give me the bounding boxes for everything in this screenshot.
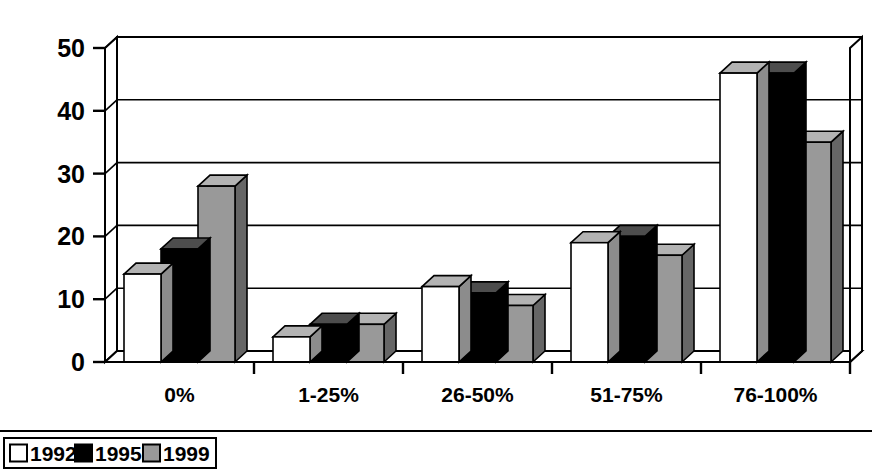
bar-1992-0% <box>124 263 173 362</box>
x-axis-category-label: 51-75% <box>590 383 663 406</box>
bar-side-face <box>459 276 471 362</box>
y-axis-tick-label: 30 <box>57 160 85 188</box>
bar-side-face <box>235 175 247 362</box>
bar-front-face <box>571 243 608 362</box>
bar-front-face <box>273 337 310 362</box>
bar-side-face <box>682 244 694 362</box>
bar-front-face <box>422 287 459 362</box>
bar-side-face <box>608 232 620 362</box>
bar-side-face <box>757 62 769 362</box>
left-wall <box>105 37 117 362</box>
x-axis-category-label: 26-50% <box>441 383 514 406</box>
chart-canvas: 010203040500%1-25%26-50%51-75%76-100%199… <box>0 0 872 472</box>
legend-swatch-white <box>10 445 27 462</box>
bar-chart-figure: 010203040500%1-25%26-50%51-75%76-100%199… <box>0 0 872 472</box>
bar-1992-26-50% <box>422 276 471 362</box>
bar-front-face <box>124 274 161 362</box>
bar-side-face <box>831 131 843 362</box>
legend-swatch-black <box>75 445 92 462</box>
y-axis-tick-label: 20 <box>57 222 85 250</box>
y-axis-tick-label: 50 <box>57 34 85 62</box>
y-axis-tick-label: 10 <box>57 285 85 313</box>
bar-side-face <box>198 238 210 362</box>
legend-label-1995: 1995 <box>95 442 142 465</box>
legend-swatch-gray <box>143 445 160 462</box>
y-axis-tick-label: 40 <box>57 97 85 125</box>
x-axis-category-label: 1-25% <box>298 383 359 406</box>
bar-front-face <box>720 73 757 362</box>
bar-1992-1-25% <box>273 326 322 362</box>
x-axis-category-label: 0% <box>164 383 195 406</box>
bar-side-face <box>161 263 173 362</box>
legend-label-1999: 1999 <box>163 442 210 465</box>
legend-label-1992: 1992 <box>30 442 77 465</box>
bar-side-face <box>794 62 806 362</box>
bar-1992-51-75% <box>571 232 620 362</box>
bar-side-face <box>496 282 508 362</box>
bar-group <box>571 225 694 362</box>
chart-legend: 199219951999 <box>0 431 872 468</box>
bar-1992-76-100% <box>720 62 769 362</box>
x-axis-category-label: 76-100% <box>733 383 817 406</box>
bar-side-face <box>645 225 657 362</box>
y-axis-tick-label: 0 <box>71 348 85 376</box>
right-wall <box>850 37 862 362</box>
